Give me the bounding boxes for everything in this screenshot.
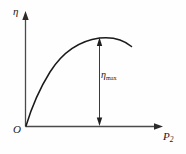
- y-axis-label: η: [13, 6, 18, 17]
- efficiency-curve: [26, 38, 132, 126]
- x-axis-label: P2: [163, 131, 173, 144]
- origin-label: O: [13, 124, 21, 135]
- x-axis-label-base: P: [163, 130, 170, 142]
- x-axis-arrowhead-icon: [154, 123, 163, 129]
- x-axis-label-subscript: 2: [170, 135, 174, 144]
- eta-max-subscript: max: [106, 74, 117, 81]
- y-axis-arrowhead-icon: [22, 11, 28, 20]
- efficiency-curve-figure: η P2 O ηmax: [0, 0, 186, 154]
- eta-max-annotation-label: ηmax: [101, 70, 117, 81]
- eta-max-arrowhead-down-icon: [97, 118, 102, 127]
- plot-canvas: [0, 0, 186, 154]
